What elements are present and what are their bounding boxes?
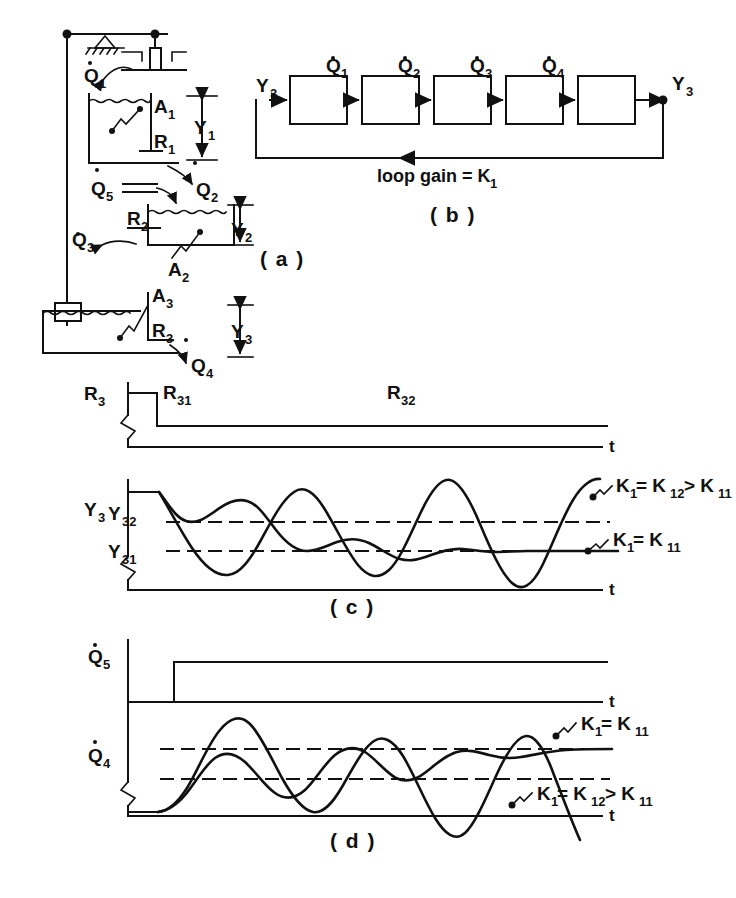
chart-d-response: Q 4 K1 = K11 <box>88 703 653 840</box>
annotation-d-damped: K1 = K11 <box>553 713 649 740</box>
axis-label-Q5-sub: 5 <box>103 657 110 672</box>
svg-text:Y: Y <box>194 117 207 138</box>
panel-c-label: ( c ) <box>330 595 375 618</box>
svg-text:Q: Q <box>542 55 557 76</box>
svg-text:3: 3 <box>270 86 277 101</box>
ground-symbol-icon <box>86 36 124 54</box>
svg-text:t: t <box>609 437 615 456</box>
block-1 <box>290 76 347 124</box>
svg-text:4: 4 <box>206 366 214 381</box>
svg-text:31: 31 <box>122 552 136 567</box>
water-surface-2 <box>148 211 226 214</box>
output-label-sub: 3 <box>686 84 693 99</box>
axis-label-R3-sub: 3 <box>98 394 105 409</box>
svg-text:= K: = K <box>601 713 631 734</box>
svg-text:2: 2 <box>413 66 420 81</box>
loop-gain-label: loop gain = K 1 <box>377 166 497 191</box>
svg-text:Y: Y <box>108 503 121 524</box>
svg-text:12: 12 <box>670 486 684 501</box>
svg-text:R: R <box>127 208 141 229</box>
panel-a-label: ( a ) <box>260 247 305 270</box>
axis-label-Y3: Y <box>84 499 97 520</box>
block-4 <box>506 76 563 124</box>
svg-text:12: 12 <box>591 794 605 809</box>
svg-text:t: t <box>609 692 615 711</box>
svg-text:11: 11 <box>635 724 649 739</box>
svg-text:Q: Q <box>196 179 211 200</box>
svg-text:A: A <box>168 259 182 280</box>
svg-text:t: t <box>609 580 615 599</box>
svg-text:A: A <box>154 96 168 117</box>
svg-text:R: R <box>387 382 401 403</box>
panel-d-label: ( d ) <box>330 829 376 852</box>
figure-root: Q1 A1 R1 Y1 <box>0 0 736 898</box>
svg-text:3: 3 <box>87 240 94 255</box>
svg-text:31: 31 <box>177 393 191 408</box>
axis-label-Q4: Q <box>88 745 103 766</box>
svg-text:Y: Y <box>231 219 244 240</box>
svg-text:loop gain = K: loop gain = K <box>377 166 491 186</box>
dimension-Y1: Y1 <box>187 96 217 160</box>
valve-A2-icon <box>172 229 203 258</box>
chart-d-input: Q 5 t <box>88 640 615 711</box>
svg-text:Q: Q <box>72 229 87 250</box>
chart-c-response: Y 3 Y32 Y31 K1 = K12 > K11 <box>84 475 732 599</box>
svg-text:> K: > K <box>605 783 635 804</box>
svg-text:1: 1 <box>208 128 215 143</box>
axis-label-Y3-sub: 3 <box>98 510 105 525</box>
svg-text:Y: Y <box>231 321 244 342</box>
axis-label-Q5: Q <box>88 646 103 667</box>
svg-text:K: K <box>581 713 595 734</box>
panel-b-block-diagram: Y3 Q1 Q2 Q3 Q4 Y 3 <box>256 55 693 226</box>
svg-text:32: 32 <box>122 514 136 529</box>
svg-text:11: 11 <box>718 486 732 501</box>
block-3 <box>434 76 491 124</box>
annotation-c-unstable: K1 = K12 > K11 <box>590 475 732 501</box>
svg-text:R: R <box>154 131 168 152</box>
svg-text:1: 1 <box>168 142 175 157</box>
svg-text:Q: Q <box>398 55 413 76</box>
svg-text:Q: Q <box>84 65 99 86</box>
label-Q5: Q5 <box>91 168 176 204</box>
svg-text:Q: Q <box>91 178 106 199</box>
svg-text:Q: Q <box>326 55 341 76</box>
svg-text:K: K <box>616 475 630 496</box>
svg-text:= K: = K <box>636 475 666 496</box>
step-signal-R3 <box>128 393 607 426</box>
svg-text:2: 2 <box>245 230 252 245</box>
tank-1: A1 R1 <box>89 94 178 163</box>
svg-text:2: 2 <box>211 190 218 205</box>
svg-text:2: 2 <box>141 219 148 234</box>
svg-text:3: 3 <box>166 296 173 311</box>
dimension-Y3: Y3 <box>228 305 253 357</box>
water-surface-1 <box>89 100 150 103</box>
block-2 <box>362 76 419 124</box>
panel-c: R 3 R31 R32 t Y 3 Y32 Y31 <box>84 382 732 618</box>
panel-b-label: ( b ) <box>430 203 476 226</box>
panel-d: Q 5 t Q 4 <box>88 640 653 852</box>
svg-text:1: 1 <box>168 107 175 122</box>
curve-c-unstable <box>159 479 600 587</box>
svg-text:Y: Y <box>256 75 269 96</box>
axis-label-R3: R <box>84 383 98 404</box>
svg-text:R: R <box>152 320 166 341</box>
tank-2: R2 A2 <box>127 205 234 285</box>
curve-d-unstable <box>158 718 580 840</box>
svg-text:> K: > K <box>684 475 714 496</box>
svg-text:Q: Q <box>470 55 485 76</box>
label-Q1: Q1 <box>84 61 133 91</box>
svg-text:K: K <box>537 783 551 804</box>
svg-text:11: 11 <box>639 794 653 809</box>
svg-text:11: 11 <box>667 540 681 555</box>
svg-text:= K: = K <box>557 783 587 804</box>
svg-text:3: 3 <box>245 332 252 347</box>
svg-text:32: 32 <box>401 393 415 408</box>
chart-c-input: R 3 R31 R32 t <box>84 382 615 456</box>
valve-A1-icon <box>109 106 143 134</box>
svg-text:A: A <box>152 285 166 306</box>
svg-text:= K: = K <box>633 529 663 550</box>
dimension-Y2: Y2 <box>228 205 253 245</box>
svg-text:R: R <box>163 382 177 403</box>
svg-text:1: 1 <box>341 66 348 81</box>
svg-text:4: 4 <box>557 66 565 81</box>
